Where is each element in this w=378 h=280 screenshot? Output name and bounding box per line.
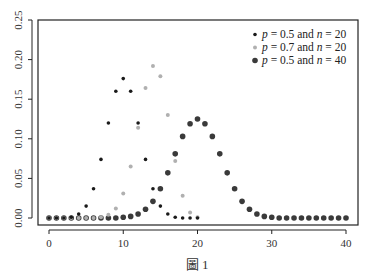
data-points bbox=[46, 64, 349, 221]
x-tick-label: 0 bbox=[46, 237, 52, 249]
binomial-scatter-chart: 0.000.050.100.150.200.25 010203040 p = 0… bbox=[0, 0, 378, 280]
y-tick-label: 0.10 bbox=[12, 129, 24, 149]
legend-marker bbox=[252, 58, 258, 64]
legend-marker bbox=[253, 46, 257, 50]
legend-marker bbox=[253, 33, 257, 37]
x-tick-label: 20 bbox=[192, 237, 204, 249]
y-tick-label: 0.05 bbox=[12, 168, 24, 188]
legend-label: p = 0.5 and n = 40 bbox=[261, 54, 346, 67]
x-axis: 010203040 bbox=[46, 230, 352, 249]
series-1 bbox=[47, 77, 199, 220]
y-tick-label: 0.00 bbox=[12, 208, 24, 228]
figure-caption: 圖 1 bbox=[0, 254, 378, 273]
series-2 bbox=[47, 64, 200, 220]
legend: p = 0.5 and n = 20p = 0.7 and n = 20p = … bbox=[252, 28, 346, 67]
y-tick-label: 0.20 bbox=[12, 49, 24, 69]
y-tick-label: 0.25 bbox=[12, 10, 24, 30]
series-3 bbox=[46, 116, 349, 221]
x-tick-label: 30 bbox=[266, 237, 278, 249]
y-axis: 0.000.050.100.150.200.25 bbox=[12, 10, 32, 228]
legend-label: p = 0.7 and n = 20 bbox=[261, 41, 346, 54]
legend-label: p = 0.5 and n = 20 bbox=[261, 28, 346, 41]
x-tick-label: 40 bbox=[341, 237, 353, 249]
y-tick-label: 0.15 bbox=[12, 89, 24, 109]
x-tick-label: 10 bbox=[118, 237, 130, 249]
